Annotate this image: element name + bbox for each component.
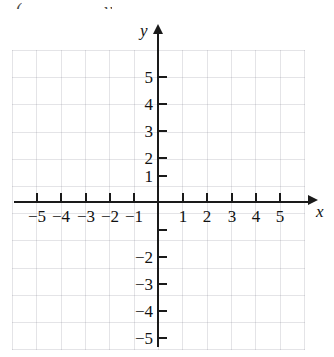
y-tick bbox=[158, 229, 167, 231]
x-tick-label: 4 bbox=[252, 208, 261, 225]
y-tick-label: −2 bbox=[135, 249, 153, 266]
x-tick bbox=[279, 193, 281, 202]
y-axis-line bbox=[157, 31, 159, 347]
x-tick bbox=[133, 193, 135, 202]
y-tick-label: −4 bbox=[135, 303, 153, 320]
x-tick-label: −1 bbox=[125, 208, 143, 225]
y-tick-label: 2 bbox=[145, 150, 154, 167]
y-tick bbox=[158, 310, 167, 312]
y-tick bbox=[158, 157, 167, 159]
x-axis-line bbox=[14, 201, 310, 203]
y-tick bbox=[158, 130, 167, 132]
coordinate-plane: ( y x y −5−4−3−2−112345 54321−2−3−4−5 bbox=[0, 0, 334, 357]
x-tick bbox=[109, 193, 111, 202]
x-tick-label: 5 bbox=[276, 208, 285, 225]
x-tick-label: −3 bbox=[77, 208, 95, 225]
y-tick-label: 4 bbox=[145, 96, 154, 113]
y-tick bbox=[158, 283, 167, 285]
y-tick-label: −3 bbox=[135, 276, 153, 293]
x-tick bbox=[182, 193, 184, 202]
x-tick bbox=[60, 193, 62, 202]
y-tick bbox=[158, 175, 167, 177]
top-edge-artifact-paren: ( bbox=[16, 0, 22, 9]
x-tick-label: 1 bbox=[179, 208, 188, 225]
x-tick-label: −5 bbox=[28, 208, 46, 225]
x-tick bbox=[206, 193, 208, 202]
y-tick-label: 1 bbox=[145, 168, 154, 185]
x-tick-label: −2 bbox=[101, 208, 119, 225]
x-tick-label: 2 bbox=[203, 208, 212, 225]
y-tick bbox=[158, 103, 167, 105]
x-tick-label: 3 bbox=[228, 208, 237, 225]
y-tick-label: −5 bbox=[135, 330, 153, 347]
x-axis-label: x bbox=[316, 203, 324, 220]
y-tick bbox=[158, 337, 167, 339]
y-tick bbox=[158, 76, 167, 78]
y-axis-arrow-icon bbox=[153, 24, 163, 34]
y-tick-label: 5 bbox=[145, 69, 154, 86]
x-tick bbox=[36, 193, 38, 202]
x-tick bbox=[85, 193, 87, 202]
x-tick bbox=[255, 193, 257, 202]
x-tick bbox=[231, 193, 233, 202]
x-tick-label: −4 bbox=[52, 208, 70, 225]
y-tick-label: 3 bbox=[145, 123, 154, 140]
top-edge-artifact-y: y bbox=[104, 0, 112, 9]
y-tick bbox=[158, 256, 167, 258]
y-axis-label: y bbox=[140, 22, 148, 39]
